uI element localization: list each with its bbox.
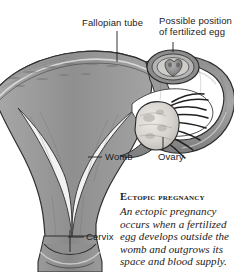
ectopic-pregnancy-figure: Fallopian tube Possible position of fert… <box>0 0 234 272</box>
label-ovary: Ovary <box>158 151 184 162</box>
label-cervix: Cervix <box>86 231 114 242</box>
caption-body: An ectopic pregnancy occurs when a ferti… <box>120 205 232 268</box>
caption-heading: Ectopic pregnancy <box>120 191 232 203</box>
caption-block: Ectopic pregnancy An ectopic pregnancy o… <box>120 191 232 268</box>
fertilized-egg <box>147 50 199 84</box>
label-womb: Womb <box>105 151 133 162</box>
label-fallopian-tube: Fallopian tube <box>82 17 143 28</box>
label-possible-position-fertilized-egg: Possible position of fertilized egg <box>159 15 232 37</box>
ovary <box>135 102 179 150</box>
